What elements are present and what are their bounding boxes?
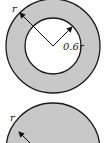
inner-radius-label: 0.6r <box>63 41 85 52</box>
disc-figure: r <box>6 103 100 143</box>
disc-circle <box>6 103 100 143</box>
outer-radius-label: r <box>12 3 18 14</box>
annulus-figure: r 0.6r <box>6 0 100 93</box>
diagram-canvas: r 0.6r r <box>0 0 106 143</box>
